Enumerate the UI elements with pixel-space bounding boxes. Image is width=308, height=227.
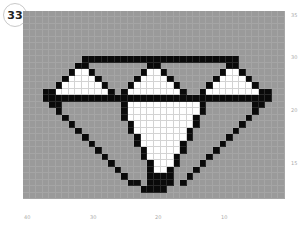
x-tick-label: 40 <box>24 214 30 220</box>
x-tick-label: 30 <box>90 214 96 220</box>
grid-cell[interactable] <box>278 193 285 199</box>
x-tick-label: 10 <box>221 214 227 220</box>
pixel-grid <box>23 11 285 199</box>
y-tick-label: 30 <box>291 54 297 60</box>
y-tick-label: 20 <box>291 107 297 113</box>
y-tick-label: 15 <box>291 160 297 166</box>
y-tick-label: 35 <box>291 12 297 18</box>
x-tick-label: 20 <box>155 214 161 220</box>
puzzle-number: 33 <box>7 9 22 22</box>
